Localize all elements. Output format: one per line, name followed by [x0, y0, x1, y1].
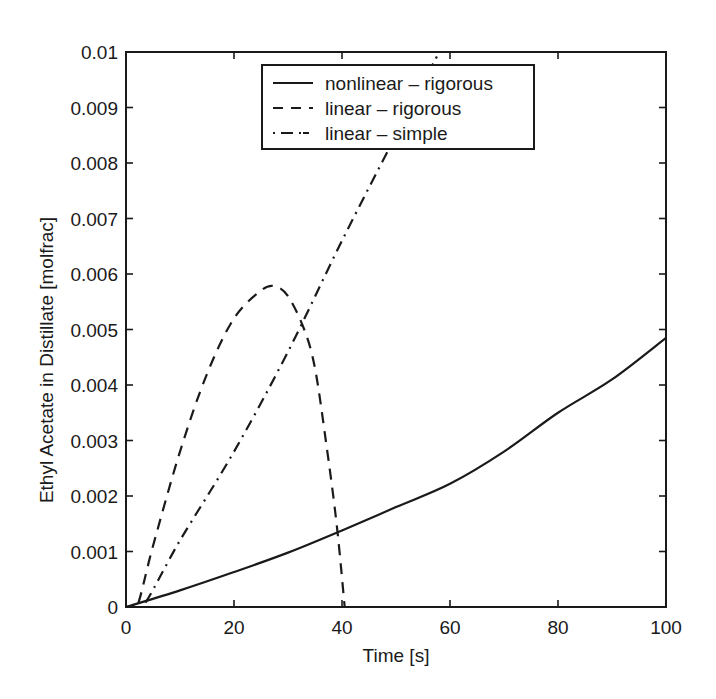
- y-tick-label: 0.005: [70, 320, 118, 341]
- x-axis-label: Time [s]: [363, 645, 430, 666]
- x-tick-label: 60: [439, 617, 460, 638]
- x-tick-label: 80: [547, 617, 568, 638]
- line-chart: 02040608010000.0010.0020.0030.0040.0050.…: [0, 0, 716, 699]
- legend-item-label: linear – simple: [325, 123, 448, 144]
- y-tick-label: 0.004: [70, 375, 118, 396]
- x-tick-label: 20: [223, 617, 244, 638]
- x-tick-label: 0: [121, 617, 132, 638]
- legend-item-label: linear – rigorous: [325, 98, 461, 119]
- series-solid-line: [126, 338, 666, 607]
- y-tick-label: 0.009: [70, 98, 118, 119]
- y-tick-label: 0.007: [70, 209, 118, 230]
- y-tick-label: 0.008: [70, 153, 118, 174]
- y-tick-label: 0.01: [81, 42, 118, 63]
- x-tick-label: 40: [331, 617, 352, 638]
- y-tick-label: 0.002: [70, 486, 118, 507]
- y-axis-label: Ethyl Acetate in Distillate [molfrac]: [36, 217, 57, 503]
- y-tick-label: 0.001: [70, 542, 118, 563]
- legend: nonlinear – rigorouslinear – rigorouslin…: [262, 65, 534, 149]
- legend-item-label: nonlinear – rigorous: [325, 73, 493, 94]
- y-tick-label: 0.003: [70, 431, 118, 452]
- x-tick-label: 100: [650, 617, 682, 638]
- y-tick-label: 0.006: [70, 264, 118, 285]
- y-tick-label: 0: [107, 597, 118, 618]
